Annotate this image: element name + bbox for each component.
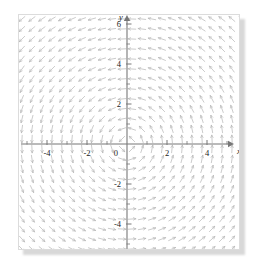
x-axis-label: x <box>237 147 240 156</box>
y-tick-label-4: 4 <box>117 60 121 69</box>
axes <box>21 15 234 249</box>
y-tick-label--4: -4 <box>114 220 121 229</box>
x-tick-label-4: 4 <box>205 149 209 158</box>
y-axis-label: y <box>119 14 123 22</box>
x-tick-label--4: -4 <box>43 149 50 158</box>
plot-frame: -6-4-20246-6-4-2246 x y <box>18 14 240 250</box>
field-arrows <box>19 16 240 250</box>
x-tick-label--2: -2 <box>83 149 90 158</box>
x-tick-label-2: 2 <box>165 149 169 158</box>
vector-field-canvas <box>19 15 240 250</box>
vector-field-figure: -6-4-20246-6-4-2246 x y <box>0 0 260 268</box>
x-tick-label-0: 0 <box>114 149 118 158</box>
y-tick-label-2: 2 <box>117 100 121 109</box>
y-tick-label--2: -2 <box>114 180 121 189</box>
